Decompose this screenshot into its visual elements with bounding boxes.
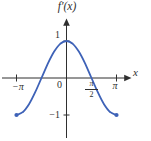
curve-endpoint-dot-left bbox=[14, 113, 18, 117]
plot-title: f′(x) bbox=[49, 1, 85, 13]
x-tick-label-neg-pi: −π bbox=[4, 82, 32, 92]
x-axis-label: x bbox=[133, 67, 138, 78]
x-tick-label-pi: π bbox=[107, 81, 123, 91]
y-axis-arrow-icon bbox=[63, 19, 70, 26]
derivative-cosine-plot: f′(x) 1 −1 0 −π π 2 π x bbox=[0, 0, 151, 141]
x-tick-label-half-pi: π 2 bbox=[85, 80, 98, 99]
y-tick-label-one: 1 bbox=[48, 30, 60, 40]
origin-label: 0 bbox=[50, 80, 62, 90]
half-pi-denominator: 2 bbox=[85, 90, 98, 99]
half-pi-numerator: π bbox=[85, 80, 98, 90]
plot-canvas bbox=[0, 0, 151, 141]
curve-endpoint-dot-right bbox=[114, 113, 118, 117]
x-axis-arrow-icon bbox=[124, 75, 131, 82]
y-tick-label-neg-one: −1 bbox=[38, 110, 60, 120]
